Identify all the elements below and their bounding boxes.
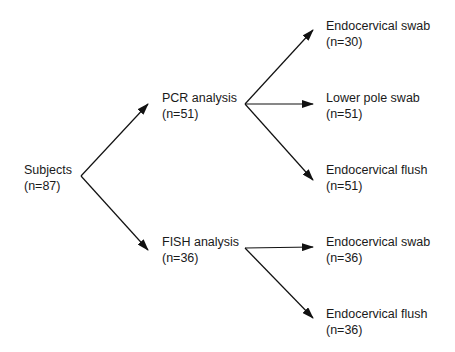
arrow-pcr-to-endocervical-flush (245, 104, 313, 180)
node-label: Endocervical flush (326, 306, 427, 322)
node-pcr-analysis: PCR analysis (n=51) (162, 90, 237, 122)
node-label: Endocervical flush (326, 162, 427, 178)
node-pcr-lower-pole-swab: Lower pole swab (n=51) (326, 90, 420, 122)
arrow-subjects-to-pcr (81, 104, 148, 176)
node-label: Endocervical swab (326, 18, 430, 34)
node-label: Endocervical swab (326, 234, 430, 250)
node-fish-endocervical-swab: Endocervical swab (n=36) (326, 234, 430, 266)
node-count: (n=36) (162, 250, 239, 266)
node-count: (n=30) (326, 34, 430, 50)
arrow-fish-to-endocervical-swab (245, 247, 313, 248)
node-label: PCR analysis (162, 90, 237, 106)
node-fish-analysis: FISH analysis (n=36) (162, 234, 239, 266)
node-count: (n=36) (326, 250, 430, 266)
node-label: Subjects (24, 162, 72, 178)
node-count: (n=51) (162, 106, 237, 122)
node-count: (n=51) (326, 178, 427, 194)
node-label: Lower pole swab (326, 90, 420, 106)
node-pcr-endocervical-flush: Endocervical flush (n=51) (326, 162, 427, 194)
arrow-fish-to-endocervical-flush (245, 248, 313, 318)
node-fish-endocervical-flush: Endocervical flush (n=36) (326, 306, 427, 338)
node-subjects: Subjects (n=87) (24, 162, 72, 194)
node-count: (n=36) (326, 322, 427, 338)
node-pcr-endocervical-swab: Endocervical swab (n=30) (326, 18, 430, 50)
node-count: (n=87) (24, 178, 72, 194)
node-count: (n=51) (326, 106, 420, 122)
arrow-subjects-to-fish (81, 176, 148, 250)
arrow-pcr-to-endocervical-swab (245, 30, 313, 104)
node-label: FISH analysis (162, 234, 239, 250)
